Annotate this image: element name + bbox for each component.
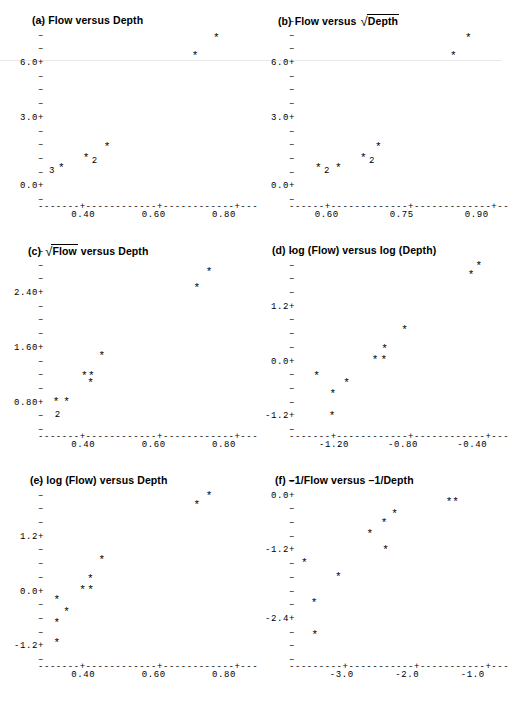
data-point-marker: * <box>54 595 61 606</box>
y-axis-tick-mark: – <box>38 315 44 325</box>
y-axis-tick-mark: – <box>38 491 44 501</box>
x-axis-tick-label: 0.60 <box>142 210 166 220</box>
panel-title-a: (a) Flow versus Depth <box>32 14 143 26</box>
data-point-marker: * <box>58 163 65 174</box>
y-axis-tick-mark: – <box>38 518 44 528</box>
y-axis-tick-mark: – <box>38 85 44 95</box>
y-axis-tick-mark: – <box>38 477 44 487</box>
data-point-marker: * <box>213 33 220 44</box>
y-axis-tick-mark: – <box>289 99 295 109</box>
data-point-marker: * <box>54 618 61 629</box>
y-axis-tick-mark: – <box>289 31 295 41</box>
y-axis-tick-mark: – <box>38 154 44 164</box>
y-axis-tick-mark: – <box>289 17 295 27</box>
y-axis-tick-mark: – <box>289 518 295 528</box>
x-axis-tick-label: 0.40 <box>71 440 95 450</box>
y-axis-tick-mark: – <box>289 532 295 542</box>
x-axis-tick-label: 0.60 <box>315 210 339 220</box>
y-axis-tick-mark: – <box>38 628 44 638</box>
x-axis-tick-label: 0.80 <box>212 210 236 220</box>
y-axis-tick-label: 1.60+ <box>0 343 44 353</box>
data-point-marker: * <box>311 598 318 609</box>
data-point-marker: * <box>366 529 373 540</box>
y-axis-tick-mark: – <box>38 168 44 178</box>
data-point-marker: * <box>206 491 213 502</box>
data-point-marker: * <box>343 378 350 389</box>
y-axis-tick-label: 1.2+ <box>0 532 44 542</box>
scatter-panel-b: (b) Flow versus √Depth–––6.0+–––3.0+––––… <box>251 0 502 236</box>
y-axis-tick-mark: – <box>38 370 44 380</box>
data-point-marker: * <box>468 270 475 281</box>
overplot-count-label: 2 <box>92 157 97 166</box>
y-axis-tick-mark: – <box>289 573 295 583</box>
data-point-marker: * <box>206 267 213 278</box>
panel-title-b: (b) Flow versus √Depth <box>278 14 399 27</box>
data-point-marker: * <box>382 545 389 556</box>
y-axis-tick-label: 6.0+ <box>0 58 44 68</box>
y-axis-tick-mark: – <box>38 274 44 284</box>
data-point-marker: * <box>465 33 472 44</box>
y-axis-tick-label: 0.0+ <box>0 587 44 597</box>
y-axis-tick-mark: – <box>38 140 44 150</box>
title-text: (e) log (Flow) versus Depth <box>30 474 167 486</box>
sqrt-icon: √Flow <box>44 244 78 257</box>
y-axis-tick-mark: – <box>38 357 44 367</box>
y-axis-tick-label: 0.0+ <box>0 181 44 191</box>
y-axis-tick-label: 3.0+ <box>251 113 295 123</box>
y-axis-tick-label: -2.4+ <box>251 614 295 624</box>
data-point-marker: * <box>194 500 201 511</box>
x-axis-tick-label: 0.40 <box>71 210 95 220</box>
y-axis-tick-mark: – <box>289 127 295 137</box>
scatter-panel-e: (e) log (Flow) versus Depth––––1.2+–––0.… <box>0 460 251 696</box>
y-axis-tick-mark: – <box>38 545 44 555</box>
y-axis-tick-mark: – <box>289 600 295 610</box>
data-point-marker: * <box>330 389 337 400</box>
x-axis-tick-label: 0.80 <box>212 440 236 450</box>
y-axis-tick-label: 0.0+ <box>251 181 295 191</box>
panel-title-e: (e) log (Flow) versus Depth <box>30 474 167 486</box>
data-point-marker: * <box>194 283 201 294</box>
y-axis-tick-mark: – <box>289 559 295 569</box>
y-axis-tick-mark: – <box>38 329 44 339</box>
data-point-marker: * <box>79 585 86 596</box>
y-axis-tick-mark: – <box>289 587 295 597</box>
overplot-count-label: 2 <box>324 167 329 176</box>
x-axis-tick-label: 0.80 <box>212 670 236 680</box>
y-axis-tick-mark: – <box>289 85 295 95</box>
y-axis-tick-mark: – <box>38 600 44 610</box>
data-point-marker: * <box>360 153 367 164</box>
title-text: (a) Flow versus Depth <box>32 14 143 26</box>
data-point-marker: * <box>53 397 60 408</box>
data-point-marker: * <box>104 142 111 153</box>
data-point-marker: * <box>391 509 398 520</box>
data-point-marker: * <box>381 344 388 355</box>
data-point-marker: * <box>452 497 459 508</box>
y-axis-tick-mark: – <box>289 504 295 514</box>
y-axis-tick-mark: – <box>289 154 295 164</box>
data-point-marker: * <box>381 355 388 366</box>
data-point-marker: * <box>87 574 94 585</box>
scatter-panel-c: (c) √Flow versus Depth–––2.40+–––1.60+––… <box>0 230 251 466</box>
data-point-marker: * <box>301 558 308 569</box>
panel-title-c: (c) √Flow versus Depth <box>28 244 148 257</box>
scatter-panel-d: (d) log (Flow) versus log (Depth)––––1.2… <box>251 230 502 466</box>
y-axis-tick-mark: – <box>38 17 44 27</box>
y-axis-tick-mark: – <box>38 72 44 82</box>
y-axis-tick-mark: – <box>289 641 295 651</box>
y-axis-tick-mark: – <box>289 247 295 257</box>
y-axis-tick-mark: – <box>289 261 295 271</box>
title-text: (f) –1/Flow versus –1/Depth <box>275 474 414 486</box>
data-point-marker: * <box>87 585 94 596</box>
y-axis-tick-mark: – <box>289 370 295 380</box>
y-axis-tick-mark: – <box>289 315 295 325</box>
y-axis-tick-mark: – <box>289 398 295 408</box>
x-axis-tick-label: -1.0 <box>461 670 485 680</box>
y-axis-tick-label: 0.0+ <box>251 357 295 367</box>
data-point-marker: * <box>87 378 94 389</box>
x-axis-tick-label: 0.90 <box>465 210 489 220</box>
y-axis-tick-label: -1.2+ <box>251 411 295 421</box>
data-point-marker: * <box>315 163 322 174</box>
y-axis-tick-label: 3.0+ <box>0 113 44 123</box>
y-axis-tick-mark: – <box>289 44 295 54</box>
